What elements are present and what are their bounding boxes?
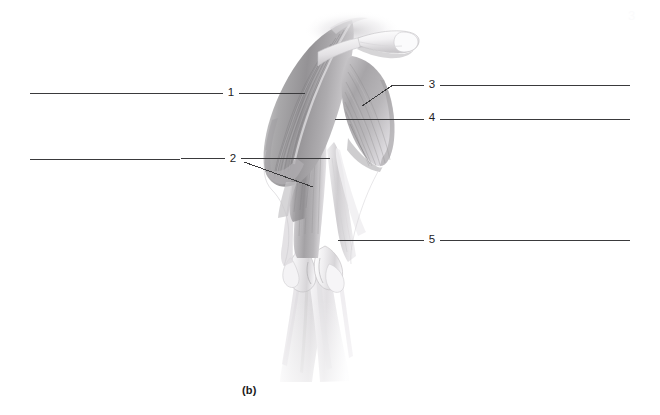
leader-line-3 [362, 85, 630, 106]
anatomy-figure: 1 2 3 4 5 (b) 3 [0, 0, 660, 415]
anatomy-illustration [0, 0, 660, 415]
label-number-3: 3 [424, 79, 440, 91]
label-number-1: 1 [223, 87, 239, 99]
corner-artifact-text: 3 [628, 8, 637, 23]
illustration-artwork [264, 8, 420, 415]
label-number-5: 5 [424, 234, 440, 246]
figure-caption: (b) [242, 384, 257, 396]
label-number-2: 2 [225, 153, 241, 165]
label-number-4: 4 [424, 112, 440, 124]
